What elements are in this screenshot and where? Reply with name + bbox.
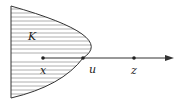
region-boundary: [11, 6, 91, 98]
region-label-k: K: [27, 30, 37, 43]
point-u: u: [81, 56, 96, 76]
point-label-x: x: [40, 64, 47, 77]
point-label-z: z: [130, 64, 137, 77]
point-z: z: [130, 56, 137, 77]
diagram-canvas: K x u z: [0, 0, 186, 105]
point-label-u: u: [89, 63, 96, 76]
point-x: x: [40, 56, 47, 77]
arrowhead-icon: [165, 55, 174, 61]
ray: [43, 55, 174, 61]
region-k: K: [11, 6, 100, 98]
